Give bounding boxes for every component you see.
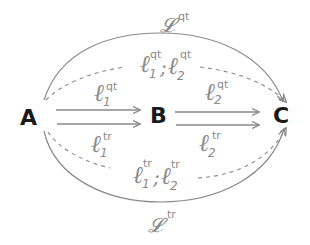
svg-text:1: 1 [100,146,108,160]
svg-text:;: ; [159,55,167,79]
label-direct-qt: 𝓛 qt [160,10,190,37]
svg-text:𝓛: 𝓛 [148,213,168,237]
node-a: A [20,105,37,130]
svg-text:tr: tr [103,130,112,143]
svg-text:2: 2 [208,146,216,160]
label-ab-tr: ℓ 1 tr [91,130,112,160]
svg-text:qt: qt [106,80,118,93]
svg-text:;: ; [152,165,160,189]
label-direct-tr: 𝓛 tr [148,208,176,237]
svg-text:qt: qt [217,78,229,91]
label-composite-qt: ℓ 1 qt ; ℓ 2 qt [140,48,192,83]
svg-text:tr: tr [171,158,180,171]
svg-text:qt: qt [180,48,192,61]
svg-text:tr: tr [143,157,152,170]
node-b: B [150,103,167,128]
svg-text:2: 2 [170,179,178,193]
svg-text:2: 2 [214,93,222,107]
svg-text:1: 1 [103,95,111,109]
label-ab-qt: ℓ 1 qt [94,79,118,109]
svg-text:tr: tr [167,208,176,221]
svg-text:1: 1 [149,67,157,81]
label-bc-qt: ℓ 2 qt [205,78,229,107]
svg-text:2: 2 [177,69,185,83]
label-bc-tr: ℓ 2 tr [199,129,221,160]
commutative-diagram: A B C 𝓛 qt ℓ 1 qt ; ℓ 2 qt ℓ 1 qt ℓ 2 qt… [0,0,310,245]
node-c: C [273,103,289,128]
svg-text:tr: tr [212,129,221,142]
svg-text:qt: qt [178,10,190,23]
svg-text:1: 1 [142,177,150,191]
label-composite-tr: ℓ 1 tr ; ℓ 2 tr [133,157,180,193]
